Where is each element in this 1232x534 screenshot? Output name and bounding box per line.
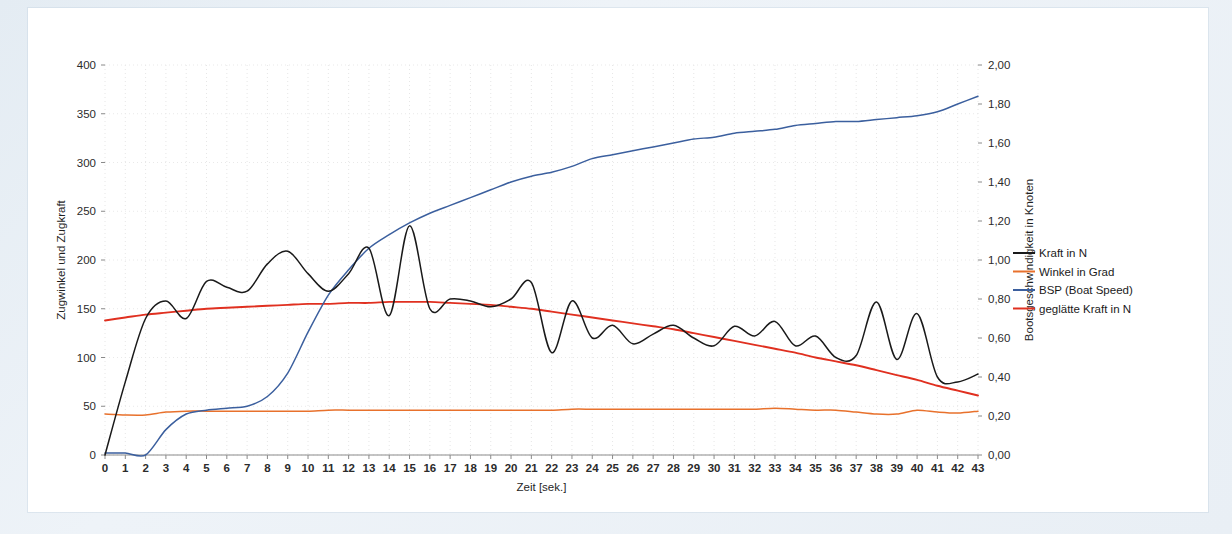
x-axis-tick-label: 35 [809, 462, 822, 474]
y2-axis-tick-label: 0,80 [988, 293, 1010, 305]
legend-label-1: Winkel in Grad [1039, 266, 1114, 278]
y-axis-title: Zugwinkel und Zugkraft [55, 199, 67, 319]
chart-card: 0501001502002503003504000,000,200,400,60… [28, 8, 1208, 512]
series-layer [105, 96, 978, 456]
x-axis-tick-label: 24 [586, 462, 599, 474]
x-axis-tick-label: 43 [972, 462, 985, 474]
x-axis-tick-label: 23 [566, 462, 579, 474]
x-axis-tick-label: 7 [244, 462, 250, 474]
y-axis-tick-label: 0 [90, 449, 96, 461]
x-axis-tick-label: 15 [403, 462, 416, 474]
y2-axis-tick-label: 1,00 [988, 254, 1010, 266]
x-axis-tick-label: 26 [626, 462, 639, 474]
x-axis-tick-label: 1 [122, 462, 129, 474]
y2-axis-tick-label: 0,20 [988, 410, 1010, 422]
x-axis-tick-label: 12 [342, 462, 355, 474]
x-axis-tick-label: 10 [302, 462, 315, 474]
chart-page: 0501001502002503003504000,000,200,400,60… [0, 0, 1232, 534]
line-chart: 0501001502002503003504000,000,200,400,60… [28, 8, 1208, 512]
x-axis-tick-label: 38 [870, 462, 883, 474]
y-axis-tick-label: 150 [77, 303, 96, 315]
x-axis-tick-label: 11 [322, 462, 335, 474]
y2-axis-tick-label: 0,60 [988, 332, 1010, 344]
x-axis-tick-label: 21 [525, 462, 538, 474]
y2-axis-tick-label: 2,00 [988, 59, 1010, 71]
x-axis-tick-label: 31 [728, 462, 741, 474]
y2-axis-tick-label: 0,00 [988, 449, 1010, 461]
x-axis-tick-label: 4 [183, 462, 190, 474]
x-axis-tick-label: 29 [687, 462, 700, 474]
x-axis-tick-label: 16 [423, 462, 436, 474]
y-axis-tick-label: 350 [77, 108, 96, 120]
y-axis-tick-label: 100 [77, 352, 96, 364]
x-axis-tick-label: 37 [850, 462, 863, 474]
x-axis-tick-label: 27 [647, 462, 660, 474]
series-line-1 [105, 408, 978, 415]
x-axis-tick-label: 13 [363, 462, 376, 474]
x-axis-tick-label: 2 [142, 462, 148, 474]
grid-layer [105, 65, 978, 455]
x-axis-tick-label: 19 [484, 462, 497, 474]
x-axis-tick-label: 14 [383, 462, 396, 474]
x-axis-tick-label: 42 [951, 462, 964, 474]
x-axis-tick-label: 17 [444, 462, 457, 474]
y2-axis-title: Bootsgeschwindigkeit in Knoten [1023, 179, 1035, 341]
x-axis-tick-label: 40 [911, 462, 924, 474]
x-axis-title: Zeit [sek.] [517, 481, 567, 493]
x-axis-tick-label: 20 [505, 462, 518, 474]
y2-axis-tick-label: 0,40 [988, 371, 1010, 383]
x-axis-tick-label: 33 [769, 462, 782, 474]
series-line-2 [105, 96, 978, 456]
x-axis-tick-label: 22 [545, 462, 558, 474]
y-axis-tick-label: 400 [77, 59, 96, 71]
y2-axis-tick-label: 1,60 [988, 137, 1010, 149]
legend-label-2: BSP (Boat Speed) [1039, 284, 1133, 296]
y2-axis-tick-label: 1,20 [988, 215, 1010, 227]
series-line-3 [105, 302, 978, 396]
x-axis-tick-label: 32 [748, 462, 761, 474]
y2-axis-tick-label: 1,80 [988, 98, 1010, 110]
x-axis-tick-label: 8 [264, 462, 271, 474]
x-axis-tick-label: 28 [667, 462, 680, 474]
x-axis-tick-label: 25 [606, 462, 619, 474]
x-axis-tick-label: 9 [285, 462, 291, 474]
x-axis-tick-label: 3 [163, 462, 169, 474]
y-axis-tick-label: 200 [77, 254, 96, 266]
x-axis-tick-label: 0 [102, 462, 108, 474]
x-axis-tick-label: 18 [464, 462, 477, 474]
x-axis-tick-label: 6 [224, 462, 230, 474]
x-axis-tick-label: 36 [829, 462, 842, 474]
y-axis-tick-label: 250 [77, 205, 96, 217]
axis-layer [101, 65, 982, 459]
x-axis-tick-label: 30 [708, 462, 721, 474]
legend-label-0: Kraft in N [1039, 247, 1087, 259]
y-axis-tick-label: 300 [77, 157, 96, 169]
x-axis-tick-label: 34 [789, 462, 802, 474]
chart-surface: 0501001502002503003504000,000,200,400,60… [28, 8, 1208, 512]
y2-axis-tick-label: 1,40 [988, 176, 1010, 188]
x-axis-tick-label: 41 [931, 462, 944, 474]
x-axis-tick-label: 39 [890, 462, 903, 474]
y-axis-tick-label: 50 [83, 400, 96, 412]
legend-label-3: geglätte Kraft in N [1039, 303, 1131, 315]
x-axis-tick-label: 5 [203, 462, 210, 474]
